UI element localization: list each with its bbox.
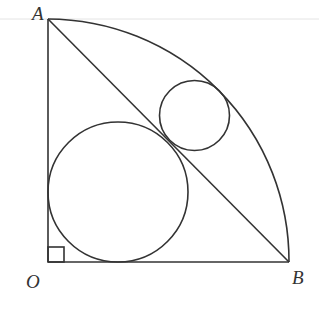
large-circle [48, 122, 188, 262]
right-angle-marker [48, 247, 64, 262]
geometry-diagram: A O B [0, 0, 319, 312]
label-b: B [292, 267, 304, 288]
small-circle [160, 81, 230, 151]
chord-ab [48, 19, 289, 262]
label-o: O [26, 271, 40, 292]
label-a: A [30, 3, 44, 24]
